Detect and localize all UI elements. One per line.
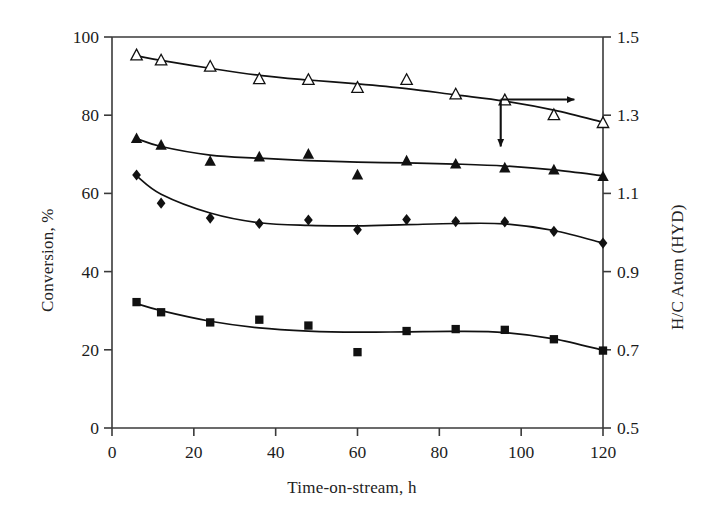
- x-tick-label: 0: [108, 442, 117, 462]
- marker-triangle-filled: [131, 132, 142, 143]
- y-tick-label-left: 0: [90, 418, 99, 438]
- marker-square-filled: [255, 316, 263, 324]
- series-filled-diamond: [132, 169, 607, 248]
- x-tick-label: 100: [508, 442, 535, 462]
- series-line-filled-diamond: [137, 176, 603, 243]
- marker-triangle-filled: [204, 155, 215, 166]
- series-filled-square: [132, 298, 607, 356]
- series-open-triangle: [131, 49, 609, 127]
- marker-square-filled: [353, 348, 361, 356]
- marker-diamond-filled: [304, 214, 313, 225]
- marker-triangle-open: [131, 49, 142, 60]
- marker-diamond-filled: [451, 216, 460, 227]
- y-axis-label-right: H/C Atom (HYD): [668, 204, 688, 330]
- marker-square-filled: [304, 321, 312, 329]
- marker-triangle-open: [401, 74, 412, 85]
- marker-triangle-filled: [352, 169, 363, 180]
- marker-diamond-filled: [550, 226, 559, 237]
- y-tick-label-left: 60: [82, 183, 100, 203]
- x-tick-label: 80: [431, 442, 449, 462]
- marker-triangle-filled: [401, 155, 412, 166]
- x-axis-label: Time-on-stream, h: [0, 478, 704, 498]
- marker-square-filled: [452, 325, 460, 333]
- x-tick-label: 20: [185, 442, 203, 462]
- marker-diamond-filled: [255, 218, 264, 229]
- marker-triangle-open: [597, 117, 608, 128]
- marker-triangle-filled: [254, 151, 265, 162]
- series-line-open-triangle: [137, 56, 603, 122]
- marker-diamond-filled: [599, 237, 608, 248]
- y-axis-label-left: Conversion, %: [38, 208, 58, 312]
- series-line-filled-square: [137, 304, 603, 351]
- marker-triangle-open: [204, 61, 215, 72]
- marker-square-filled: [206, 318, 214, 326]
- marker-triangle-filled: [155, 139, 166, 150]
- y-tick-label-left: 100: [73, 27, 100, 47]
- y-tick-label-right: 0.5: [617, 418, 639, 438]
- figure-container: 0204060801000.50.70.91.11.31.50204060801…: [0, 0, 704, 518]
- marker-triangle-filled: [303, 148, 314, 159]
- marker-square-filled: [157, 308, 165, 316]
- x-tick-label: 40: [267, 442, 285, 462]
- marker-diamond-filled: [157, 198, 166, 209]
- x-tick-label: 60: [349, 442, 367, 462]
- y-tick-label-right: 1.5: [617, 27, 639, 47]
- y-tick-label-right: 1.1: [617, 183, 639, 203]
- y-tick-label-right: 0.9: [617, 262, 639, 282]
- y-tick-label-left: 20: [82, 340, 100, 360]
- marker-diamond-filled: [402, 214, 411, 225]
- y-tick-label-right: 0.7: [617, 340, 639, 360]
- y-tick-label-left: 80: [82, 105, 100, 125]
- marker-square-filled: [550, 335, 558, 343]
- chart-canvas: 0204060801000.50.70.91.11.31.50204060801…: [0, 0, 704, 518]
- marker-square-filled: [402, 327, 410, 335]
- y-tick-label-left: 40: [82, 262, 100, 282]
- series-line-filled-triangle: [137, 139, 603, 176]
- marker-square-filled: [501, 326, 509, 334]
- marker-square-filled: [132, 298, 140, 306]
- marker-square-filled: [599, 346, 607, 354]
- y-tick-label-right: 1.3: [617, 105, 639, 125]
- series-filled-triangle: [131, 132, 609, 181]
- x-tick-label: 120: [590, 442, 617, 462]
- marker-diamond-filled: [500, 216, 509, 227]
